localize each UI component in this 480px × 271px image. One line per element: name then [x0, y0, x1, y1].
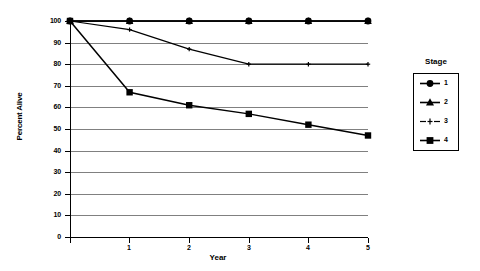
legend-item-3[interactable]: 3	[414, 112, 458, 131]
triangle-marker-icon	[418, 93, 442, 112]
x-tick-2	[189, 238, 190, 243]
y-tick-50	[65, 129, 70, 130]
y-tick-label-10: 10	[39, 211, 61, 218]
gridline-20	[70, 194, 368, 195]
x-tick-1	[129, 238, 130, 243]
y-tick-20	[65, 194, 70, 195]
y-axis-line	[70, 21, 71, 238]
y-tick-70	[65, 86, 70, 87]
gridline-100	[70, 21, 368, 22]
y-tick-label-30: 30	[39, 168, 61, 175]
x-tick-label-3: 3	[242, 244, 256, 251]
gridline-10	[70, 215, 368, 216]
y-tick-100	[65, 21, 70, 22]
y-tick-80	[65, 64, 70, 65]
x-axis-line	[70, 237, 368, 238]
y-tick-40	[65, 151, 70, 152]
y-tick-10	[65, 215, 70, 216]
y-tick-label-60: 60	[39, 103, 61, 110]
x-tick-5	[368, 238, 369, 243]
y-tick-label-50: 50	[39, 125, 61, 132]
y-tick-label-80: 80	[39, 60, 61, 67]
legend-label-1: 1	[444, 79, 448, 86]
y-tick-label-100: 100	[39, 17, 61, 24]
gridline-30	[70, 172, 368, 173]
legend-box: 1 2 3 4	[413, 73, 459, 151]
circle-marker-icon	[418, 74, 442, 93]
x-tick-4	[308, 238, 309, 243]
y-tick-90	[65, 43, 70, 44]
gridline-60	[70, 107, 368, 108]
legend-item-4[interactable]: 4	[414, 131, 458, 150]
x-tick-label-4: 4	[301, 244, 315, 251]
square-marker-icon	[418, 131, 442, 150]
y-tick-label-90: 90	[39, 39, 61, 46]
survival-chart-figure: 100 90 80 70 60 50 40 30 20 10 0 1 2 3 4…	[0, 0, 480, 271]
legend-item-1[interactable]: 1	[414, 74, 458, 93]
legend-item-2[interactable]: 2	[414, 93, 458, 112]
gridline-80	[70, 64, 368, 65]
gridline-50	[70, 129, 368, 130]
legend-label-2: 2	[444, 98, 448, 105]
cross-marker-icon	[418, 112, 442, 131]
legend-label-3: 3	[444, 117, 448, 124]
y-tick-60	[65, 107, 70, 108]
x-tick-label-2: 2	[182, 244, 196, 251]
x-tick-0	[70, 238, 71, 243]
y-tick-label-70: 70	[39, 82, 61, 89]
y-tick-label-20: 20	[39, 190, 61, 197]
y-tick-label-0: 0	[39, 233, 61, 240]
x-tick-label-1: 1	[122, 244, 136, 251]
legend-label-4: 4	[444, 136, 448, 143]
legend-title: Stage	[410, 57, 462, 66]
gridline-40	[70, 151, 368, 152]
x-tick-3	[249, 238, 250, 243]
series-layer	[0, 0, 480, 271]
y-tick-30	[65, 172, 70, 173]
x-axis-label: Year	[178, 253, 258, 262]
y-axis-label: Percent Alive	[15, 77, 24, 157]
gridline-90	[70, 43, 368, 44]
y-tick-label-40: 40	[39, 147, 61, 154]
x-tick-label-5: 5	[361, 244, 375, 251]
gridline-70	[70, 86, 368, 87]
